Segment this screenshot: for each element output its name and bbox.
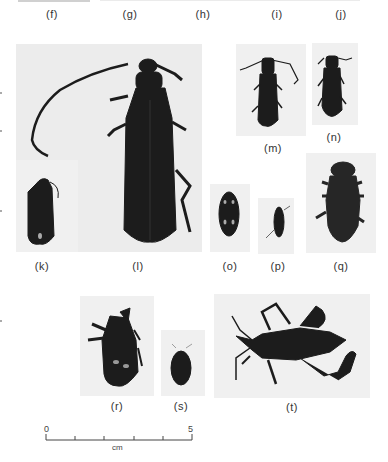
scale-ruler-icon (0, 0, 388, 462)
scale-unit-label: cm (112, 443, 123, 452)
